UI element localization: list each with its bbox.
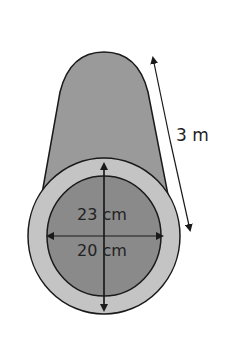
outer-diameter-label: 23 cm bbox=[77, 205, 127, 224]
inner-diameter-label: 20 cm bbox=[77, 241, 127, 260]
pipe-diagram: 3 m 23 cm 20 cm bbox=[0, 0, 230, 348]
length-label: 3 m bbox=[176, 125, 209, 145]
